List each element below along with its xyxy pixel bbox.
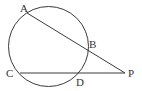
secant-diagram: A B C D P <box>0 0 142 91</box>
label-p: P <box>128 67 134 79</box>
label-c: C <box>6 67 13 79</box>
label-b: B <box>89 38 96 50</box>
secant-ap <box>27 13 125 73</box>
label-d: D <box>76 76 84 88</box>
label-a: A <box>20 2 28 14</box>
circle <box>9 7 89 87</box>
